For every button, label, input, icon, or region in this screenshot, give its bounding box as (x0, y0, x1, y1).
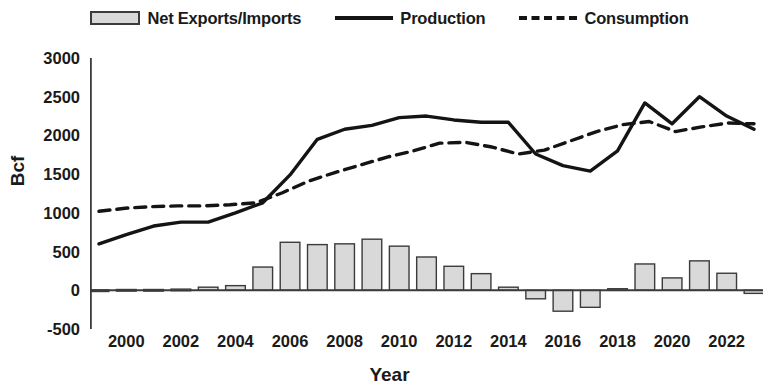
x-axis-tick-labels: 2000200220042006200820102012201420162018… (0, 332, 779, 358)
x-tick-2012: 2012 (435, 332, 472, 351)
y-tick-3000: 3000 (43, 49, 80, 68)
x-tick-2008: 2008 (326, 332, 363, 351)
y-tick-500: 500 (52, 242, 80, 261)
y-tick-2000: 2000 (43, 126, 80, 145)
legend-label-consumption: Consumption (584, 9, 688, 28)
bar-swatch-icon (90, 11, 140, 25)
bar-2015 (526, 290, 546, 299)
legend-label-production: Production (400, 9, 485, 28)
bar-2007 (308, 245, 328, 291)
legend-item-net-exports-imports: Net Exports/Imports (90, 9, 301, 28)
legend-item-production: Production (335, 9, 485, 28)
bar-2019 (635, 264, 655, 290)
x-tick-2014: 2014 (490, 332, 527, 351)
dashed-line-icon (519, 16, 577, 20)
bar-2010 (389, 246, 409, 290)
line-series-production (99, 97, 754, 244)
x-tick-2016: 2016 (545, 332, 582, 351)
x-axis-title: Year (0, 364, 779, 386)
x-tick-2000: 2000 (108, 332, 145, 351)
line-series-consumption (99, 121, 754, 211)
plot-area (90, 58, 763, 329)
y-tick-2500: 2500 (43, 87, 80, 106)
bar-2008 (335, 244, 355, 290)
x-tick-2002: 2002 (163, 332, 200, 351)
bar-2016 (553, 290, 573, 311)
chart-container: Net Exports/Imports Production Consumpti… (0, 0, 779, 389)
x-tick-2010: 2010 (381, 332, 418, 351)
chart-legend: Net Exports/Imports Production Consumpti… (0, 2, 779, 34)
solid-line-icon (335, 16, 393, 20)
bar-2012 (444, 266, 464, 290)
x-tick-2022: 2022 (708, 332, 745, 351)
y-tick-1500: 1500 (43, 165, 80, 184)
bar-2011 (417, 257, 437, 290)
y-tick-0: 0 (71, 281, 80, 300)
bar-2020 (662, 278, 682, 290)
x-tick-2018: 2018 (599, 332, 636, 351)
y-axis-tick-labels: 300025002000150010005000-500 (0, 50, 88, 335)
bar-2013 (471, 274, 491, 291)
legend-label-net-exports-imports: Net Exports/Imports (147, 9, 301, 28)
bar-2021 (690, 261, 710, 290)
x-tick-2020: 2020 (654, 332, 691, 351)
bar-2005 (253, 267, 273, 290)
bar-2009 (362, 239, 382, 290)
y-tick-1000: 1000 (43, 203, 80, 222)
x-tick-2006: 2006 (272, 332, 309, 351)
chart-canvas (90, 58, 763, 329)
bar-2022 (717, 273, 737, 290)
bar-2017 (580, 290, 600, 307)
x-tick-2004: 2004 (217, 332, 254, 351)
legend-item-consumption: Consumption (519, 9, 688, 28)
bar-2006 (280, 242, 300, 290)
